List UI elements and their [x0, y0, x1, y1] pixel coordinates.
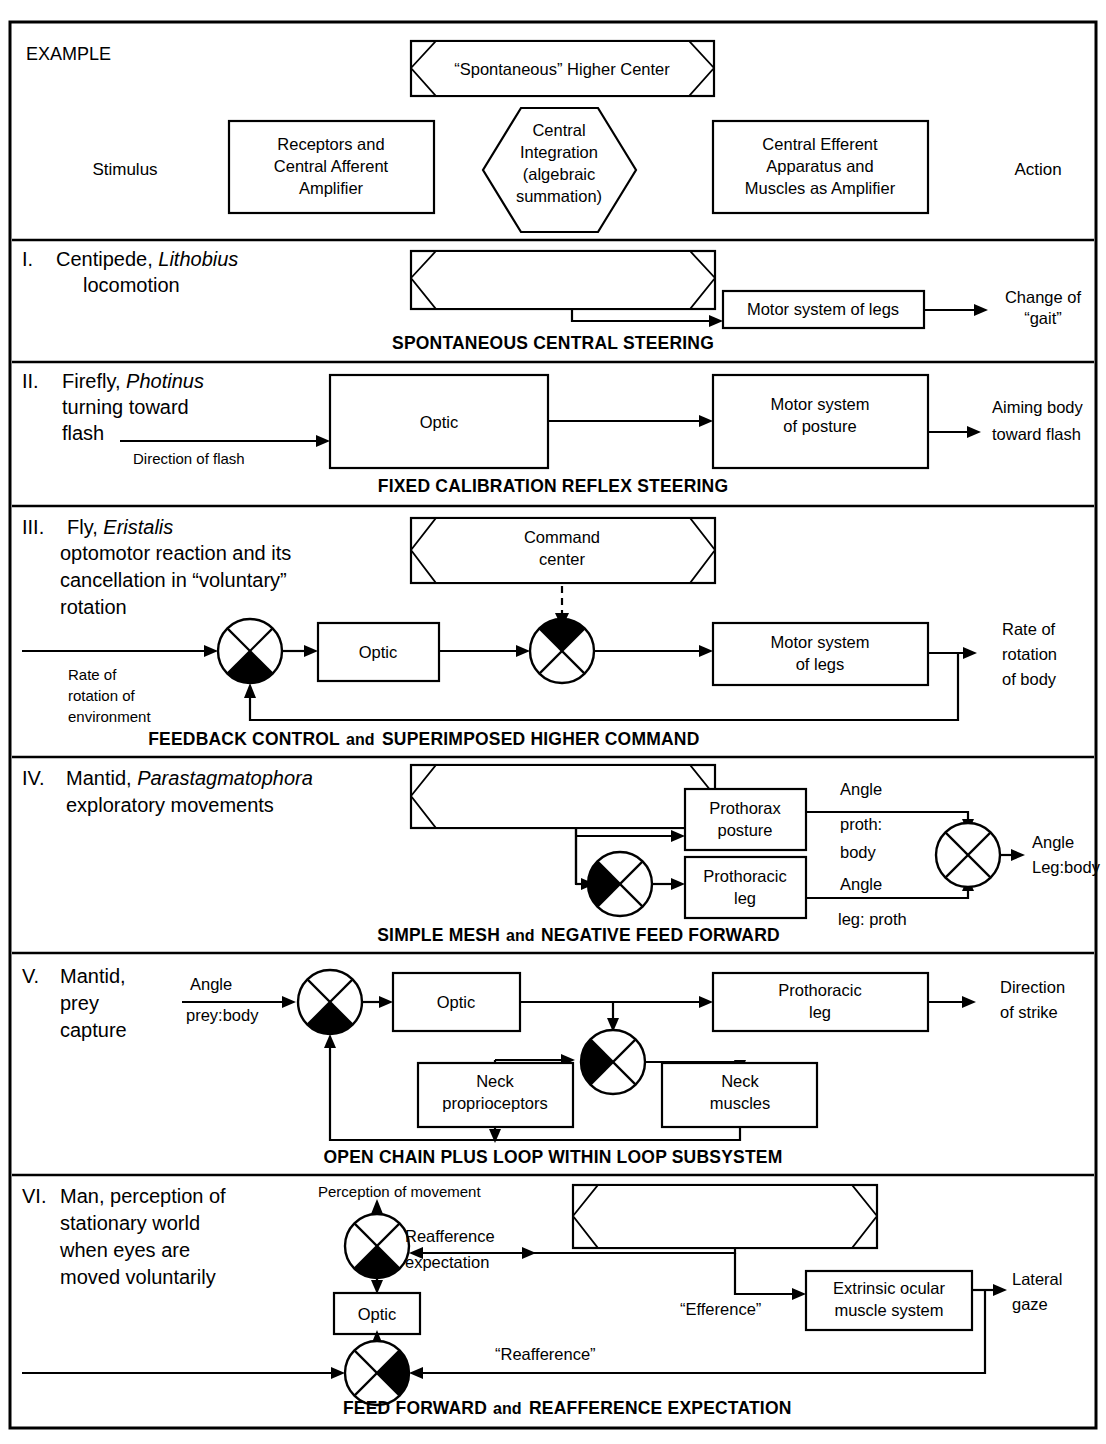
row-4-junction-empty-icon: [936, 823, 1000, 887]
row-3-caption-and: and: [346, 731, 374, 748]
row-3-command-line-1: Command: [524, 528, 600, 546]
row-2-motor-line-1: Motor system: [770, 395, 869, 413]
row-1-arrowhead-1: [709, 315, 723, 327]
row-5-junction-2-icon: [581, 1030, 645, 1094]
row-2-numeral: II.: [22, 370, 39, 392]
row-6-arrowhead-9: [409, 1367, 423, 1379]
row-5-arrowhead-8: [324, 1034, 336, 1048]
row-5-neck-proprioceptors-box: Neck proprioceptors: [418, 1063, 573, 1127]
row-5-optic-box: Optic: [393, 973, 520, 1031]
row-3-output-label-1: Rate of: [1002, 620, 1056, 638]
row-1-caption: SPONTANEOUS CENTRAL STEERING: [392, 333, 714, 353]
row-1-spontaneous-center-box: [411, 251, 715, 309]
row-4-caption-and: and: [506, 927, 534, 944]
row-1-arrowhead-2: [974, 304, 988, 316]
row-4-prothorax-posture-box: Prothorax posture: [685, 789, 806, 850]
row-4-arrowhead-6: [1011, 849, 1025, 861]
row-5-arrowhead-3: [699, 996, 713, 1008]
row-6-junction-2-icon: [345, 1341, 409, 1405]
row-2-title-line-3: flash: [62, 422, 104, 444]
row-2-arrowhead-3: [967, 426, 981, 438]
row-2-arrowhead-2: [699, 415, 713, 427]
row-2-optic-label: Optic: [420, 413, 459, 431]
row-6-reafference-label-2: expectation: [405, 1253, 489, 1271]
row-3-arrowhead-feedback: [244, 683, 256, 698]
row-6-title-line-1: Man, perception of: [60, 1185, 226, 1207]
row-5-leg-line-1: Prothoracic: [778, 981, 861, 999]
row-6-man-perception: VI. Man, perception of stationary world …: [22, 1183, 1062, 1418]
row-3-junction-1-summation-icon: [218, 619, 282, 683]
row-6-caption-and: and: [493, 1400, 521, 1417]
efferent-line-1: Central Efferent: [762, 135, 878, 153]
row-3-title-line-1: Fly, Eristalis: [67, 516, 173, 538]
row-3-arrowhead-5: [963, 647, 977, 659]
flow-diagram-canvas: EXAMPLE “Spontaneous” Higher Center Stim…: [0, 0, 1106, 1444]
row-2-title-line-1: Firefly, Photinus: [62, 370, 204, 392]
row-3-optic-box: Optic: [318, 623, 439, 681]
row-3-optic-label: Optic: [359, 643, 398, 661]
row-5-output-label-2: of strike: [1000, 1003, 1058, 1021]
row-3-command-line-2: center: [539, 550, 585, 568]
row-3-motor-line-2: of legs: [796, 655, 845, 673]
row-6-junction-1-icon: [345, 1214, 409, 1278]
row-6-reafference-quote-label: “Reafference”: [495, 1345, 596, 1363]
receptors-afferent-box: Receptors and Central Afferent Amplifier: [229, 121, 434, 213]
row-6-efference-line: [735, 1253, 793, 1294]
row-2-optic-box: Optic: [330, 375, 548, 468]
row-3-arrowhead-4: [699, 645, 713, 657]
row-4-caption-b: NEGATIVE FEED FORWARD: [541, 925, 780, 945]
row-4-prothorax-line-2: posture: [717, 821, 772, 839]
row-1-motor-system-box: Motor system of legs: [723, 291, 924, 328]
row-5-output-label-1: Direction: [1000, 978, 1065, 996]
row-6-reafference-label-1: Reafference: [405, 1227, 495, 1245]
row-3-output-label-2: rotation: [1002, 645, 1057, 663]
receptors-line-3: Amplifier: [299, 179, 364, 197]
row-4-arrowhead-3: [671, 878, 685, 890]
row-4-junction-left-filled-icon: [588, 852, 652, 916]
figure-page: EXAMPLE “Spontaneous” Higher Center Stim…: [0, 0, 1106, 1444]
row-4-label-body: body: [840, 843, 877, 861]
row-2-output-label-1: Aiming body: [992, 398, 1084, 416]
receptors-line-1: Receptors and: [277, 135, 384, 153]
row-3-title-line-3: cancellation in “voluntary”: [60, 569, 287, 591]
row-3-title-line-4: rotation: [60, 596, 127, 618]
row-5-muscles-line-1: Neck: [721, 1072, 759, 1090]
row-6-arrowhead-8: [331, 1367, 345, 1379]
row-6-arrowhead-1: [371, 1199, 383, 1214]
row-6-optic-label: Optic: [358, 1305, 397, 1323]
header-row: EXAMPLE “Spontaneous” Higher Center Stim…: [26, 41, 1062, 232]
row-6-higher-center-box: [573, 1185, 877, 1248]
row-5-arrowhead-2: [379, 996, 393, 1008]
row-4-leg-line-1: Prothoracic: [703, 867, 786, 885]
row-5-propr-line-2: proprioceptors: [442, 1094, 547, 1112]
row-6-optic-box: Optic: [334, 1293, 420, 1334]
row-4-caption-a: SIMPLE MESH: [377, 925, 500, 945]
row-3-numeral: III.: [22, 516, 44, 538]
efferent-line-3: Muscles as Amplifier: [745, 179, 896, 197]
row-6-ocular-line-1: Extrinsic ocular: [833, 1279, 945, 1297]
row-1-output-label-2: “gait”: [1024, 309, 1062, 327]
row-3-input-label-1: Rate of: [68, 666, 117, 683]
row-3-caption-b: SUPERIMPOSED HIGHER COMMAND: [382, 729, 700, 749]
row-6-arrowhead-3: [522, 1247, 536, 1259]
central-integration-hexagon: Central Integration (algebraic summation…: [483, 108, 636, 232]
row-4-arrowhead-1: [671, 830, 685, 842]
row-2-title-line-2: turning toward: [62, 396, 189, 418]
row-5-numeral: V.: [22, 965, 39, 987]
action-label: Action: [1014, 160, 1061, 179]
stimulus-label: Stimulus: [92, 160, 157, 179]
row-4-title-line-2: exploratory movements: [66, 794, 274, 816]
row-5-mantid-prey: V. Mantid, prey capture Angle prey:body …: [22, 965, 1065, 1167]
row-5-arrowhead-4: [962, 996, 976, 1008]
example-label: EXAMPLE: [26, 44, 111, 64]
row-4-leg-line-2: leg: [734, 889, 756, 907]
row-6-lateral-label-2: gaze: [1012, 1295, 1048, 1313]
row-6-efference-label: “Efference”: [680, 1300, 761, 1318]
row-4-label-proth: proth:: [840, 815, 882, 833]
row-2-arrowhead-1: [316, 435, 330, 447]
row-5-caption: OPEN CHAIN PLUS LOOP WITHIN LOOP SUBSYST…: [324, 1147, 783, 1167]
spontaneous-higher-center-box: “Spontaneous” Higher Center: [411, 41, 714, 96]
row-4-numeral: IV.: [22, 767, 45, 789]
row-3-motor-line-1: Motor system: [770, 633, 869, 651]
row-3-fly: III. Fly, Eristalis optomotor reaction a…: [22, 516, 1057, 749]
